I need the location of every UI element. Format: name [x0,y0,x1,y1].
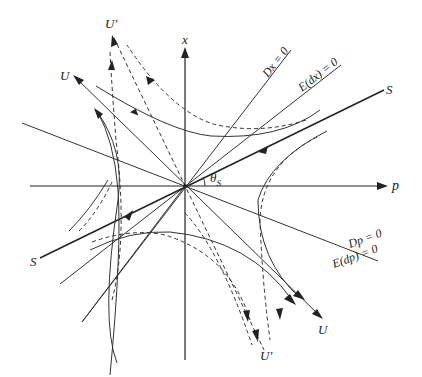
dp-zero-line: Dp = 0 E(dp) = 0 [22,123,384,271]
p-axis-label: p [391,178,399,193]
curve-lower-center-dashed [185,213,252,345]
edx-zero-label: E(dx) = 0 [294,55,340,95]
u-prime-label-lower: U' [260,348,272,363]
x-axis: x [181,32,189,360]
curve-right-dashed [260,137,317,340]
curve-upper-dashed-arrow-icon [146,76,155,85]
s-label-lower: S [30,254,37,269]
ray-lower-left [82,186,185,322]
curve-upper-left-dashed-arrow-icon [108,60,115,70]
u-label-lower: U [318,322,329,337]
curve-upper-left-arrow-icon [94,108,103,119]
u-prime-arrow-lower-icon [252,329,259,342]
u-prime-label-upper: U' [105,16,117,31]
curve-lower-left-dashed [79,182,112,231]
curve-right-dashed-arrow-icon [276,308,283,320]
angle-theta-s: θS [203,170,221,188]
trajectory-upper-left [96,110,119,363]
u-label-upper: U [60,68,71,83]
edx-zero-line: E(dx) = 0 [60,55,341,284]
origin-point [183,184,187,188]
curve-lower-left-solid [69,180,108,231]
x-axis-label: x [181,32,188,47]
theta-label: θS [210,170,221,188]
x-axis-arrow-icon [181,47,189,58]
curve-lower-dashed-arrow-icon [243,310,250,322]
p-axis-arrow-icon [377,182,388,190]
phase-diagram: p x Dx = 0 E(dx) = 0 Dp = 0 E(dp) = 0 S … [0,0,422,377]
dx-zero-label: Dx = 0 [259,44,292,80]
s-label-upper: S [386,82,393,97]
curve-upper-solid [96,86,320,136]
